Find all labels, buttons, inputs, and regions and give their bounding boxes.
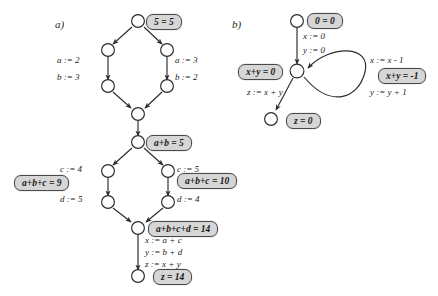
node-a-r4 (162, 196, 175, 209)
node-a-l2 (102, 80, 115, 93)
assignment-a-x: x := a + c (145, 235, 182, 246)
assignment-b-x0: x := 0 (303, 31, 325, 42)
assignment-a-right-a: a := 3 (175, 55, 198, 66)
panel-a-label: a) (55, 18, 64, 30)
assertion-abc-10: a+b+c = 10 (177, 173, 237, 189)
assignment-a-left-c: c := 4 (60, 164, 82, 175)
assignment-b-zxy: z := x + y (247, 87, 283, 98)
node-b-root (291, 15, 304, 28)
node-a-ab (132, 136, 145, 149)
node-a-join2 (132, 222, 145, 235)
assertion-xy-minus-1: x+y = -1 (378, 68, 426, 84)
panel-b-label: b) (232, 18, 241, 30)
node-a-root (132, 15, 145, 28)
assignment-b-xdec: x := x - 1 (370, 55, 404, 66)
assertion-xy-0: x+y = 0 (238, 64, 283, 80)
assertion-a-plus-b: a+b = 5 (146, 135, 192, 151)
node-a-r3 (162, 165, 175, 178)
node-a-l3 (102, 165, 115, 178)
assignment-a-left-a: a := 2 (57, 55, 80, 66)
assignment-a-left-d: d := 5 (60, 194, 83, 205)
assignment-a-right-b: b := 2 (175, 72, 198, 83)
node-a-l1 (102, 44, 115, 57)
assertion-z-0: z = 0 (286, 113, 321, 129)
node-a-r1 (161, 44, 174, 57)
assertion-5-equals-5: 5 = 5 (146, 14, 182, 30)
node-a-join1 (132, 108, 145, 121)
assertion-0-equals-0: 0 = 0 (307, 13, 343, 29)
assignment-a-left-b: b := 3 (57, 72, 80, 83)
node-b-final (265, 113, 278, 126)
assignment-b-y0: y := 0 (303, 45, 325, 56)
assertion-abc-9: a+b+c = 9 (14, 175, 69, 191)
graph-edges-layer (0, 0, 438, 296)
assignment-b-yinc: y := y + 1 (370, 87, 407, 98)
assignment-a-right-d: d := 4 (177, 194, 200, 205)
assignment-a-y: y := b + d (145, 247, 182, 258)
assertion-z-14: z = 14 (153, 269, 192, 285)
node-b-loop (290, 64, 304, 78)
node-a-r2 (161, 80, 174, 93)
figure-canvas: a) 5 = 5 a := 2 b := 3 a := 3 b := 2 a+b… (0, 0, 438, 296)
node-a-final (132, 270, 145, 283)
node-a-l4 (102, 196, 115, 209)
